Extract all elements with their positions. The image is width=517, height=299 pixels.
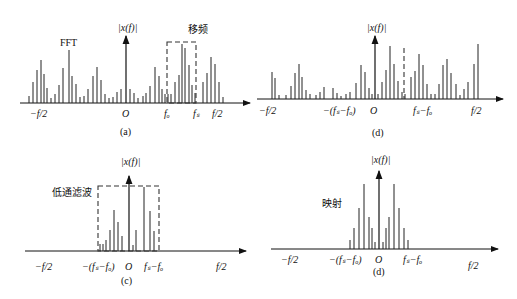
x-label-half-fs: f/2 <box>471 105 482 116</box>
x-label-fs-minus-fo: fₛ−fₒ <box>403 254 422 265</box>
x-label-neg-fs-minus-fo: −(fₛ−fₒ) <box>329 254 362 266</box>
x-label-neg-half-fs: −f/2 <box>259 105 276 116</box>
mapping-label: 映射 <box>322 198 342 209</box>
x-label-origin: O <box>375 254 382 265</box>
panel-d-shifted: |x(f)| −f/2 −(fₛ−fₒ) O fₛ−fₒ f/2 (d) <box>257 22 503 139</box>
x-label-half-fs: f/2 <box>212 108 223 119</box>
x-label-origin: O <box>122 108 129 119</box>
shift-label: 移频 <box>188 23 208 35</box>
spectrum-bars <box>100 187 154 251</box>
x-label-neg-half-fs: −f/2 <box>35 261 52 272</box>
panel-d-mapped: |x(f)| 映射 −f/2 −(fₛ−fₒ) O fₛ−fₒ f/2 (d) <box>271 154 498 278</box>
lowpass-filter-label: 低通滤波 <box>52 186 92 198</box>
x-label-fs: fₛ <box>193 108 200 119</box>
fft-label: FFT <box>60 37 77 48</box>
x-label-origin: O <box>370 105 377 116</box>
x-label-neg-half-fs: −f/2 <box>281 254 298 265</box>
spectrum-diagram: |x(f)| FFT 移频 −f/2 O fₒ fₛ f/2 (a) <box>0 0 517 299</box>
x-label-fo: fₒ <box>164 108 170 119</box>
x-label-neg-half-fs: −f/2 <box>30 108 47 119</box>
x-label-origin: O <box>125 261 132 272</box>
panel-c: |x(f)| 低通滤波 −f/2 −(fₛ−fₒ) O fₛ−fₒ f/2 (c… <box>25 156 246 287</box>
x-label-fs-minus-fo: fₛ−fₒ <box>144 261 163 272</box>
y-axis-label: |x(f)| <box>121 156 140 168</box>
y-axis-label: |x(f)| <box>367 22 386 34</box>
y-axis-label: |x(f)| <box>371 154 390 166</box>
caption-c: (c) <box>121 275 132 287</box>
x-label-fs-minus-fo: fₛ−fₒ <box>413 105 432 116</box>
x-label-neg-fs-minus-fo: −(fₛ−fₒ) <box>323 105 356 117</box>
caption-d-bottom: (d) <box>373 266 385 278</box>
panel-a: |x(f)| FFT 移频 −f/2 O fₒ fₛ f/2 (a) <box>20 22 250 138</box>
caption-d-top: (d) <box>372 127 384 139</box>
caption-a: (a) <box>120 126 131 138</box>
x-label-half-fs: f/2 <box>468 260 479 271</box>
x-label-neg-fs-minus-fo: −(fₛ−fₒ) <box>82 261 115 273</box>
y-axis-label: |x(f)| <box>118 22 137 34</box>
x-label-half-fs: f/2 <box>216 261 227 272</box>
